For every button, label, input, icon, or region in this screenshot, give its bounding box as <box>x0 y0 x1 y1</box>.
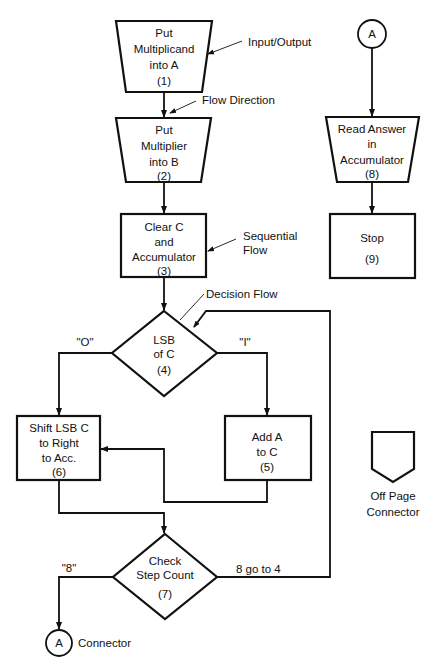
node-9-stop: Stop (9) <box>330 214 415 278</box>
edge-label-not-eight: 8 go to 4 <box>236 563 281 575</box>
edge-label-eight: "8" <box>62 562 77 574</box>
annotation-sequential-1: Sequential <box>243 230 297 242</box>
node-7-check-step-count: Check Step Count (7) <box>113 534 217 619</box>
node-5-line-3: (5) <box>260 461 274 473</box>
node-4-lsb-decision: LSB of C (4) <box>112 311 217 396</box>
pointer-input-output <box>208 41 242 54</box>
node-5-add-a-to-c: Add A to C (5) <box>225 416 311 480</box>
flowchart: Put Multiplicand into A (1) Put Multipli… <box>0 0 434 664</box>
node-7-line-3: (7) <box>158 588 172 600</box>
node-1-line-4: (1) <box>157 75 171 87</box>
node-3-clear-c: Clear C and Accumulator (3) <box>121 214 206 277</box>
node-3-line-4: (3) <box>157 265 171 277</box>
node-7-line-1: Check <box>149 555 182 567</box>
node-6-line-4: (6) <box>52 466 66 478</box>
node-3-line-2: and <box>154 236 173 248</box>
off-page-connector-symbol <box>372 432 414 482</box>
connector-a-bottom-label: A <box>55 637 63 649</box>
annotation-offpage-1: Off Page <box>370 490 415 502</box>
node-8-line-2: in <box>368 138 377 150</box>
node-1-line-2: Multiplicand <box>134 43 195 55</box>
node-4-line-3: (4) <box>157 364 171 376</box>
node-5-line-2: to C <box>256 446 277 458</box>
annotation-flow-direction: Flow Direction <box>202 94 275 106</box>
node-6-line-2: to Right <box>39 437 79 449</box>
node-1-line-3: into A <box>150 59 179 71</box>
node-3-line-1: Clear C <box>145 221 184 233</box>
node-6-line-1: Shift LSB C <box>29 422 88 434</box>
node-3-line-3: Accumulator <box>132 251 196 263</box>
node-5-line-1: Add A <box>252 431 283 443</box>
node-8-line-4: (8) <box>365 168 379 180</box>
node-6-shift-lsb: Shift LSB C to Right to Acc. (6) <box>17 416 100 480</box>
node-2-line-1: Put <box>155 124 173 136</box>
annotation-sequential-2: Flow <box>243 244 268 256</box>
edge-6-to-7 <box>59 480 164 533</box>
node-9-line-1: Stop <box>360 232 384 244</box>
edge-4-to-5 <box>217 353 267 415</box>
edge-7-to-connector-a <box>59 577 113 629</box>
node-1-put-multiplicand: Put Multiplicand into A (1) <box>116 21 212 92</box>
node-4-line-1: LSB <box>153 334 175 346</box>
annotation-decision-flow: Decision Flow <box>206 288 278 300</box>
node-8-read-answer: Read Answer in Accumulator (8) <box>326 117 419 182</box>
node-2-put-multiplier: Put Multiplier into B (2) <box>116 118 211 182</box>
node-7-line-2: Step Count <box>136 569 194 581</box>
node-8-line-3: Accumulator <box>340 154 404 166</box>
pointer-sequential-flow <box>208 239 236 251</box>
node-4-line-2: of C <box>153 348 174 360</box>
edge-label-zero: "O" <box>76 336 93 348</box>
node-2-line-3: into B <box>149 156 179 168</box>
connector-a-bottom: A <box>46 630 72 656</box>
annotation-offpage-2: Connector <box>366 506 419 518</box>
annotation-connector: Connector <box>78 637 131 649</box>
annotation-input-output: Input/Output <box>248 36 312 48</box>
connector-a-top-label: A <box>368 28 376 40</box>
connector-a-top: A <box>358 20 386 48</box>
node-2-line-4: (2) <box>157 170 171 182</box>
node-8-line-1: Read Answer <box>338 123 407 135</box>
node-2-line-2: Multiplier <box>141 140 187 152</box>
pointer-flow-direction <box>170 101 196 113</box>
edge-label-one: "I" <box>239 336 250 348</box>
edge-4-to-6 <box>59 353 112 415</box>
node-9-line-2: (9) <box>365 253 379 265</box>
pointer-decision-flow <box>180 294 204 320</box>
node-1-line-1: Put <box>155 27 173 39</box>
node-6-line-3: to Acc. <box>42 452 77 464</box>
